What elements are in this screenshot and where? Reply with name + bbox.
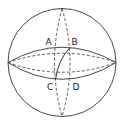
meridian-left: [55, 9, 63, 117]
meridian-right: [62, 9, 70, 117]
horizontal-circle-upper-front: [8, 47, 116, 62]
label-d: D: [73, 82, 80, 92]
sphere-outline: [8, 9, 116, 117]
horizontal-circle-lower-front: [8, 63, 116, 80]
label-b: B: [72, 37, 78, 47]
label-c: C: [47, 82, 53, 92]
sphere-diagram: A B C D: [0, 0, 124, 125]
arc-b-to-c: [56, 48, 71, 80]
label-a: A: [46, 37, 53, 47]
